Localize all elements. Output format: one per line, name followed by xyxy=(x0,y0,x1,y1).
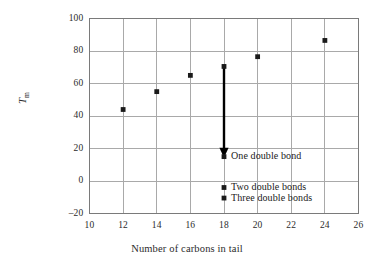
annotation-label: Two double bonds xyxy=(231,181,306,192)
y-tick-label: 80 xyxy=(44,45,84,55)
y-tick-label: 60 xyxy=(44,78,84,88)
y-tick-label: –20 xyxy=(44,208,84,218)
annotation-label: One double bond xyxy=(231,150,301,161)
double-bond-arrow xyxy=(219,66,228,157)
x-tick-label: 26 xyxy=(339,220,374,230)
chart-figure: 100806040200–20 101214161820222426 One d… xyxy=(0,0,374,264)
annotation-label: Three double bonds xyxy=(231,192,312,203)
x-axis-label: Number of carbons in tail xyxy=(0,243,374,254)
y-tick-label: 0 xyxy=(44,175,84,185)
y-tick-label: 100 xyxy=(44,13,84,23)
y-axis-label-base: T xyxy=(16,98,28,104)
y-tick-label: 20 xyxy=(44,143,84,153)
y-tick-label: 40 xyxy=(44,110,84,120)
y-axis-label: Tm xyxy=(16,92,31,104)
y-axis-label-subscript: m xyxy=(22,92,31,98)
